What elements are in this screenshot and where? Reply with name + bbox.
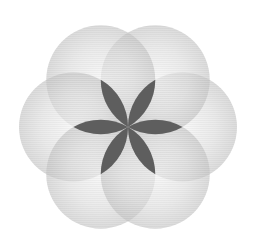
seed-of-life-diagram (0, 0, 260, 251)
